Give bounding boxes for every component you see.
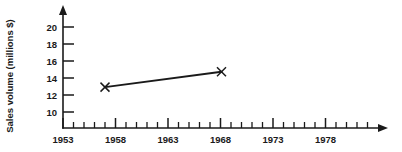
y-tick-label: 16 [46,56,57,67]
y-tick-label: 14 [46,73,57,84]
x-axis-major-ticks [63,118,326,128]
arrow-up-icon [59,5,67,15]
y-axis-ticks [63,27,74,112]
y-axis-title: Sales volume (millions $) [4,19,15,133]
y-tick-label: 10 [46,107,57,118]
x-tick-label: 1963 [157,134,178,145]
x-axis-tick-labels: 1953 1958 1963 1968 1973 1978 [52,134,336,145]
series-line-segment [105,72,222,87]
y-tick-label: 12 [46,90,57,101]
x-tick-label: 1978 [315,134,336,145]
y-tick-label: 18 [46,39,57,50]
x-tick-label: 1953 [52,134,73,145]
x-tick-label: 1958 [105,134,126,145]
x-tick-label: 1968 [210,134,231,145]
chart-container: Sales volume (millions $) 20 18 16 14 12… [0,0,402,152]
y-tick-label: 20 [46,22,57,33]
sales-volume-line-chart: Sales volume (millions $) 20 18 16 14 12… [0,0,402,152]
y-axis-tick-labels: 20 18 16 14 12 10 [46,22,57,118]
x-tick-label: 1973 [262,134,283,145]
arrow-right-icon [378,124,388,132]
data-series-sales-volume [101,67,227,91]
